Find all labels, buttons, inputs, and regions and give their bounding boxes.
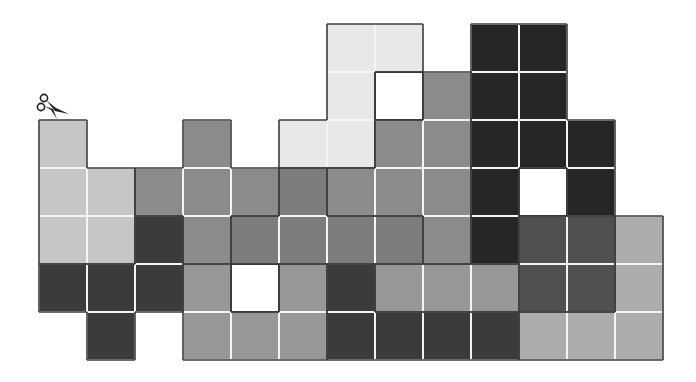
grid-cell — [375, 312, 423, 360]
grid-cell — [375, 24, 423, 72]
grid-cell — [615, 216, 663, 264]
grid-cell — [423, 72, 471, 120]
grid-cell — [519, 24, 567, 72]
grid-cell — [327, 168, 375, 216]
grid-cell — [519, 264, 567, 312]
grid-cell — [423, 216, 471, 264]
grid-cell — [471, 312, 519, 360]
grid-cell — [375, 120, 423, 168]
grid-cell — [87, 168, 135, 216]
grid-cell — [567, 312, 615, 360]
grid-cell — [87, 312, 135, 360]
grid-cell — [183, 312, 231, 360]
grid-cell — [87, 216, 135, 264]
grid-cell — [183, 264, 231, 312]
grid-cell — [279, 216, 327, 264]
grid-cell — [39, 216, 87, 264]
grid-cell — [39, 264, 87, 312]
grid-cell — [615, 264, 663, 312]
grid-cell — [567, 216, 615, 264]
grid-cell — [231, 312, 279, 360]
puzzle-board — [0, 0, 696, 382]
grid-cell — [567, 264, 615, 312]
grid-cell — [423, 168, 471, 216]
hole-cell — [231, 264, 279, 312]
grid-cell — [135, 216, 183, 264]
grid-cell — [471, 216, 519, 264]
grid-cell — [279, 264, 327, 312]
grid-cell — [279, 120, 327, 168]
grid-cell — [231, 168, 279, 216]
grid-cell — [183, 168, 231, 216]
grid-cell — [567, 120, 615, 168]
grid-cell — [519, 312, 567, 360]
grid-cell — [183, 120, 231, 168]
grid-cell — [423, 120, 471, 168]
grid-cell — [471, 168, 519, 216]
scissors-icon — [36, 92, 70, 120]
grid-cell — [423, 312, 471, 360]
grid-cell — [327, 264, 375, 312]
grid-cell — [39, 168, 87, 216]
grid-cell — [327, 216, 375, 264]
grid-cell — [375, 264, 423, 312]
hole-cell — [519, 168, 567, 216]
grid-cell — [135, 168, 183, 216]
grid-cell — [39, 120, 87, 168]
grid-cell — [471, 264, 519, 312]
grid-cell — [471, 120, 519, 168]
grid-cell — [87, 264, 135, 312]
grid-cell — [183, 216, 231, 264]
grid-cell — [471, 72, 519, 120]
hole-cell — [375, 72, 423, 120]
grid-cell — [375, 216, 423, 264]
grid-cell — [471, 24, 519, 72]
grid-cell — [327, 24, 375, 72]
grid-cell — [519, 216, 567, 264]
grid-cell — [327, 312, 375, 360]
grid-cell — [231, 216, 279, 264]
grid-cell — [279, 312, 327, 360]
grid-cell — [375, 168, 423, 216]
grid-cell — [615, 312, 663, 360]
grid-cell — [135, 264, 183, 312]
grid-cell — [423, 264, 471, 312]
grid-cell — [327, 72, 375, 120]
grid-cell — [519, 120, 567, 168]
grid-cell — [519, 72, 567, 120]
grid-cell — [279, 168, 327, 216]
grid-cell — [327, 120, 375, 168]
grid-cell — [567, 168, 615, 216]
